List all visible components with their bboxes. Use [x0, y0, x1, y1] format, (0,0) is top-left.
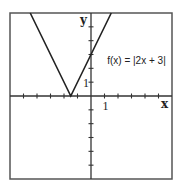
y-axis-label: y [79, 13, 88, 27]
graph-chart: x y 1 1 f(x) = |2x + 3| [0, 0, 181, 192]
x-tick-label: 1 [103, 99, 109, 113]
function-annotation: f(x) = |2x + 3| [107, 55, 166, 66]
y-tick-label: 1 [83, 76, 89, 90]
x-axis-label: x [161, 97, 169, 111]
function-line [30, 13, 111, 96]
